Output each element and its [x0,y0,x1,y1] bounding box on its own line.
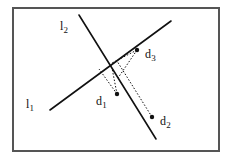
point-marker-d3 [135,48,139,52]
point-label-d1: d1 [96,92,107,110]
point-label-d2: d2 [160,112,171,130]
line-label-l1-subscript: 1 [30,103,35,113]
point-marker-d2 [150,115,154,119]
main-lines-group [50,15,171,139]
line-label-l2-subscript: 2 [64,25,69,35]
point-label-d3-subscript: 3 [151,53,156,63]
line-label-l2: l2 [60,17,68,35]
point-label-d2-subscript: 2 [166,120,171,130]
point-label-d3: d3 [145,45,156,63]
point-marker-d1 [115,92,119,96]
line-label-l1: l1 [26,95,34,113]
main-line-l2 [79,15,156,139]
geometry-figure: l1l2d1d2d3 [0,0,231,160]
line-label-l2-base: l [60,19,63,33]
line-label-l1-base: l [26,97,29,111]
projection-line-d2-to-l2 [117,61,152,117]
point-label-d1-subscript: 1 [102,100,107,110]
outer-border-rect [13,8,219,151]
figure-canvas [0,0,231,160]
projection-line-d3-to-l2 [118,50,137,78]
